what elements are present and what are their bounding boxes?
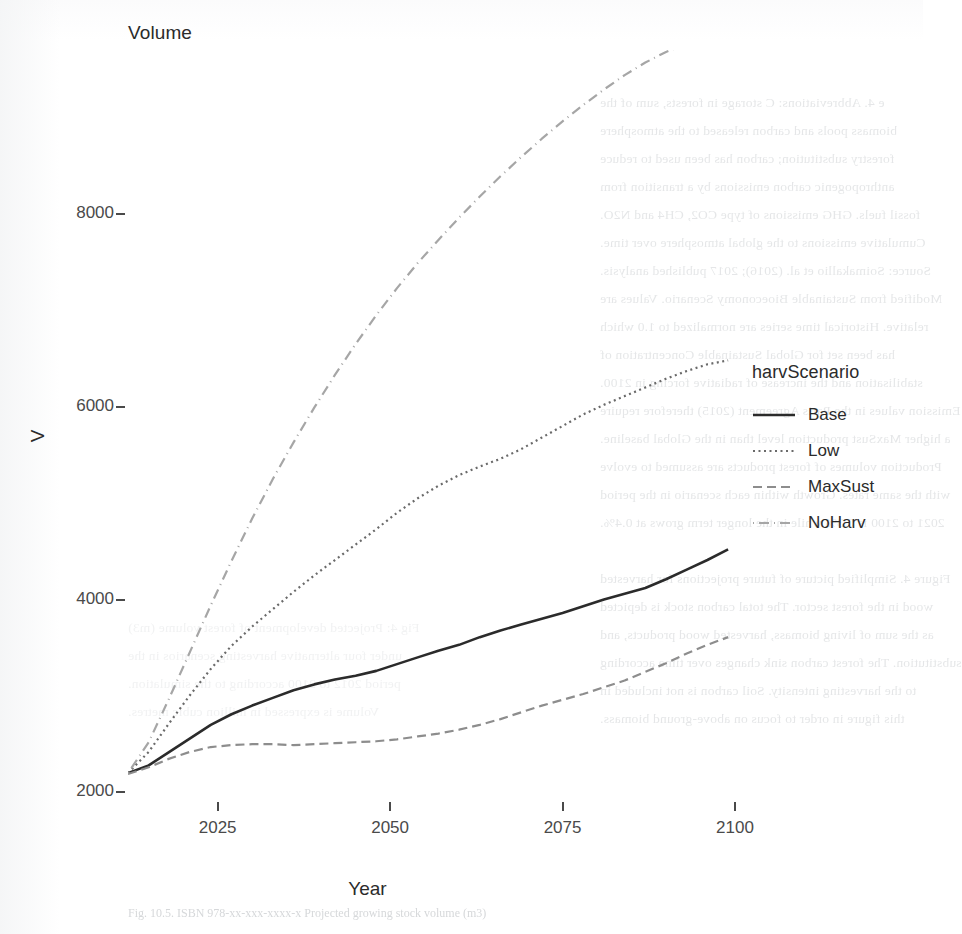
y-tick-label: 8000 xyxy=(42,203,114,223)
x-tick-mark xyxy=(217,802,219,811)
x-tick-mark xyxy=(562,802,564,811)
y-axis-title: V xyxy=(27,416,49,456)
x-tick-label: 2075 xyxy=(518,818,608,838)
legend-key-icon xyxy=(752,444,796,458)
legend-key-icon xyxy=(752,408,796,422)
legend-item-maxsust[interactable]: MaxSust xyxy=(752,469,917,505)
x-tick-label: 2025 xyxy=(173,818,263,838)
legend-item-label: Base xyxy=(808,405,847,425)
legend-title: harvScenario xyxy=(752,362,917,383)
y-tick-label: 4000 xyxy=(42,589,114,609)
plot-lines-svg xyxy=(128,50,735,802)
y-tick-mark xyxy=(116,599,125,601)
x-tick-label: 2100 xyxy=(690,818,780,838)
y-tick-label: 6000 xyxy=(42,396,114,416)
plot-panel xyxy=(128,50,735,802)
legend: harvScenario BaseLowMaxSustNoHarv xyxy=(752,362,917,541)
legend-item-label: NoHarv xyxy=(808,513,866,533)
y-tick-mark xyxy=(116,791,125,793)
legend-item-base[interactable]: Base xyxy=(752,397,917,433)
series-line-maxsust xyxy=(128,637,728,774)
y-tick-mark xyxy=(116,213,125,215)
y-tick-mark xyxy=(116,406,125,408)
legend-item-label: Low xyxy=(808,441,839,461)
x-tick-mark xyxy=(734,802,736,811)
legend-item-low[interactable]: Low xyxy=(752,433,917,469)
legend-item-label: MaxSust xyxy=(808,477,874,497)
y-tick-label: 2000 xyxy=(42,781,114,801)
legend-key-icon xyxy=(752,480,796,494)
x-axis-title: Year xyxy=(0,878,735,900)
legend-key-icon xyxy=(752,516,796,530)
series-line-low xyxy=(128,360,728,773)
legend-item-noharv[interactable]: NoHarv xyxy=(752,505,917,541)
x-tick-label: 2050 xyxy=(345,818,435,838)
legend-items: BaseLowMaxSustNoHarv xyxy=(752,397,917,541)
x-tick-mark xyxy=(389,802,391,811)
series-line-noharv xyxy=(128,50,728,773)
plot-title: Volume xyxy=(128,22,192,44)
